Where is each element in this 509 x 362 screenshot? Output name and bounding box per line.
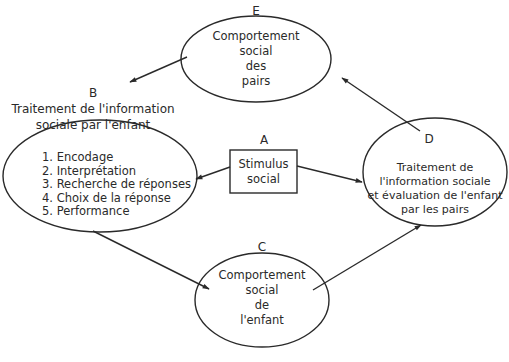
node-d-line: l'information sociale	[365, 175, 505, 189]
edge-a-to-d	[297, 166, 362, 182]
node-a-line: social	[230, 172, 297, 187]
step-item: 5. Performance	[42, 205, 191, 219]
node-e-line: des	[186, 59, 326, 74]
node-e-line: pairs	[186, 74, 326, 89]
node-c-line: social	[192, 283, 332, 298]
step-item: 3. Recherche de réponses	[42, 178, 191, 192]
node-b-title: Traitement de l'information sociale par …	[3, 101, 183, 133]
node-d-line: et évaluation de l'enfant	[365, 189, 505, 203]
node-b-title-line: sociale par l'enfant	[3, 117, 183, 133]
node-b-letter: B	[83, 86, 103, 101]
step-item: 4. Choix de la réponse	[42, 192, 191, 206]
node-a-label: Stimulus social	[230, 157, 297, 187]
node-a-line: Stimulus	[230, 157, 297, 172]
edge-d-to-e	[342, 78, 420, 131]
edge-a-to-b	[196, 167, 230, 179]
node-c-line: Comportement	[192, 268, 332, 283]
node-e-letter: E	[246, 4, 266, 19]
node-e-line: social	[186, 44, 326, 59]
step-item: 2. Interprétation	[42, 165, 191, 179]
node-c-letter: C	[252, 240, 272, 255]
node-b-steps: 1. Encodage 2. Interprétation 3. Recherc…	[42, 151, 191, 219]
edge-e-to-b	[130, 57, 187, 82]
node-d-letter: D	[419, 132, 439, 147]
node-a-letter: A	[254, 133, 274, 148]
node-d-line: Traitement de	[365, 161, 505, 175]
node-d-label: Traitement de l'information sociale et é…	[365, 161, 505, 217]
node-e-line: Comportement	[186, 29, 326, 44]
node-c-line: l'enfant	[192, 313, 332, 328]
step-item: 1. Encodage	[42, 151, 191, 165]
node-e-label: Comportement social des pairs	[186, 29, 326, 89]
node-b-title-line: Traitement de l'information	[3, 101, 183, 117]
node-c-label: Comportement social de l'enfant	[192, 268, 332, 328]
node-c-line: de	[192, 298, 332, 313]
node-d-line: par les pairs	[365, 203, 505, 217]
